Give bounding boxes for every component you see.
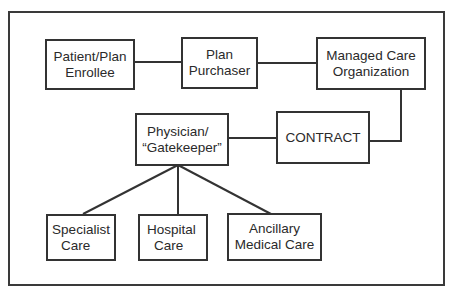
node-label-line2: Medical Care bbox=[235, 237, 315, 253]
node-label-line2: “Gatekeeper” bbox=[142, 140, 222, 156]
node-label-line2: Purchaser bbox=[189, 63, 251, 79]
edge-mco-contract bbox=[369, 89, 401, 141]
node-label-line2: Enrollee bbox=[65, 65, 115, 81]
node-patient-plan-enrollee: Patient/Plan Enrollee bbox=[45, 39, 135, 90]
node-label-line1: Patient/Plan bbox=[54, 49, 127, 65]
node-label-line2: Care bbox=[140, 238, 183, 254]
node-label-line1: Hospital bbox=[140, 222, 196, 238]
node-label-line2: Organization bbox=[333, 64, 410, 80]
node-specialist-care: Specialist Care bbox=[46, 214, 116, 261]
node-label-line1: Physician/ bbox=[137, 124, 209, 140]
node-label-line1: Ancillary bbox=[249, 221, 300, 237]
node-label-line1: Specialist bbox=[52, 222, 110, 238]
node-label-line1: CONTRACT bbox=[286, 130, 361, 146]
node-label-line1: Plan bbox=[206, 47, 233, 63]
node-ancillary-medical-care: Ancillary Medical Care bbox=[227, 213, 322, 261]
node-plan-purchaser: Plan Purchaser bbox=[181, 37, 258, 89]
node-label-line1: Managed Care bbox=[326, 48, 415, 64]
node-label-line2: Care bbox=[48, 238, 90, 254]
edge-physician-ancillary bbox=[178, 165, 271, 214]
node-physician-gatekeeper: Physician/ “Gatekeeper” bbox=[135, 113, 229, 166]
node-hospital-care: Hospital Care bbox=[138, 214, 208, 261]
node-managed-care-organization: Managed Care Organization bbox=[316, 37, 426, 90]
edge-physician-specialist bbox=[83, 165, 178, 214]
node-contract: CONTRACT bbox=[276, 111, 370, 164]
